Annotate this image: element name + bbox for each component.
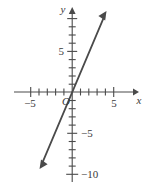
graph-canvas: y x O 5 −5 −10 −5 5: [0, 0, 148, 189]
x-tick-label-5: 5: [111, 97, 117, 109]
y-axis-arrowhead: [69, 7, 76, 14]
x-axis-group: [14, 87, 139, 97]
y-tick-label-5: 5: [59, 45, 65, 57]
plotted-line: [43, 17, 105, 163]
coordinate-graph-figure: y x O 5 −5 −10 −5 5: [0, 0, 148, 189]
y-tick-label-neg5: −5: [81, 127, 93, 139]
y-axis-label: y: [60, 3, 66, 15]
x-tick-label-neg5: −5: [24, 97, 36, 109]
x-axis-label: x: [136, 94, 142, 106]
y-tick-label-neg10: −10: [81, 168, 99, 180]
origin-label: O: [62, 95, 70, 107]
